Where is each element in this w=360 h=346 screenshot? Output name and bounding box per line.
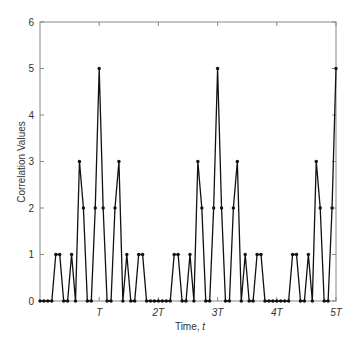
x-tick-label: 3T — [212, 307, 225, 318]
data-point — [188, 253, 191, 256]
data-point — [137, 253, 140, 256]
data-point — [232, 206, 235, 209]
data-point — [165, 299, 168, 302]
data-point — [192, 299, 195, 302]
x-axis-title: Time, t — [175, 321, 206, 332]
data-point — [244, 253, 247, 256]
data-point — [291, 253, 294, 256]
data-point — [255, 253, 258, 256]
y-tick-label: 4 — [28, 110, 34, 121]
data-point — [145, 299, 148, 302]
data-point — [129, 299, 132, 302]
data-point — [200, 206, 203, 209]
data-point — [228, 299, 231, 302]
data-point — [58, 253, 61, 256]
data-point — [70, 253, 73, 256]
data-point — [271, 299, 274, 302]
data-point — [299, 299, 302, 302]
data-point — [204, 299, 207, 302]
data-point — [74, 299, 77, 302]
data-series — [38, 67, 337, 303]
data-point — [263, 299, 266, 302]
data-point — [184, 299, 187, 302]
data-point — [62, 299, 65, 302]
data-point — [98, 67, 101, 70]
data-point — [101, 206, 104, 209]
data-point — [303, 299, 306, 302]
data-point — [172, 253, 175, 256]
data-point — [46, 299, 49, 302]
data-point — [216, 67, 219, 70]
data-point — [212, 206, 215, 209]
data-point — [208, 299, 211, 302]
data-point — [307, 253, 310, 256]
data-point — [326, 299, 329, 302]
y-tick-label: 0 — [28, 296, 34, 307]
data-point — [54, 253, 57, 256]
data-point — [267, 299, 270, 302]
data-point — [196, 160, 199, 163]
data-point — [94, 206, 97, 209]
data-point — [117, 160, 120, 163]
data-point — [125, 253, 128, 256]
data-point — [153, 299, 156, 302]
data-point — [311, 299, 314, 302]
data-point — [287, 299, 290, 302]
data-point — [295, 253, 298, 256]
data-point — [315, 160, 318, 163]
data-point — [319, 206, 322, 209]
data-point — [66, 299, 69, 302]
data-point — [224, 299, 227, 302]
data-point — [330, 206, 333, 209]
y-tick-label: 5 — [28, 63, 34, 74]
data-point — [169, 299, 172, 302]
correlation-chart: 0123456 T2T3T4T5T Correlation Values Tim… — [0, 0, 360, 346]
data-point — [50, 299, 53, 302]
y-tick-label: 1 — [28, 249, 34, 260]
data-point — [247, 299, 250, 302]
data-point — [121, 299, 124, 302]
data-point — [82, 206, 85, 209]
data-point — [236, 160, 239, 163]
data-point — [220, 206, 223, 209]
data-point — [161, 299, 164, 302]
y-tick-label: 2 — [28, 203, 34, 214]
data-point — [157, 299, 160, 302]
data-point — [86, 299, 89, 302]
x-tick-label: 5T — [330, 307, 343, 318]
data-point — [279, 299, 282, 302]
y-tick-label: 6 — [28, 17, 34, 28]
y-axis: 0123456 — [28, 17, 336, 307]
y-tick-label: 3 — [28, 156, 34, 167]
data-point — [251, 299, 254, 302]
x-tick-label: T — [96, 307, 103, 318]
data-point — [38, 299, 41, 302]
x-tick-label: 2T — [152, 307, 166, 318]
data-point — [275, 299, 278, 302]
data-point — [78, 160, 81, 163]
data-point — [322, 299, 325, 302]
series-line — [40, 69, 336, 302]
data-point — [259, 253, 262, 256]
data-point — [149, 299, 152, 302]
data-point — [90, 299, 93, 302]
data-point — [334, 67, 337, 70]
data-point — [109, 299, 112, 302]
data-point — [141, 253, 144, 256]
x-tick-label: 4T — [271, 307, 284, 318]
data-point — [180, 299, 183, 302]
data-point — [176, 253, 179, 256]
data-point — [240, 299, 243, 302]
y-axis-title: Correlation Values — [16, 121, 27, 203]
data-point — [105, 299, 108, 302]
data-point — [283, 299, 286, 302]
data-point — [113, 206, 116, 209]
x-axis: T2T3T4T5T — [96, 22, 343, 318]
data-point — [133, 299, 136, 302]
data-point — [42, 299, 45, 302]
